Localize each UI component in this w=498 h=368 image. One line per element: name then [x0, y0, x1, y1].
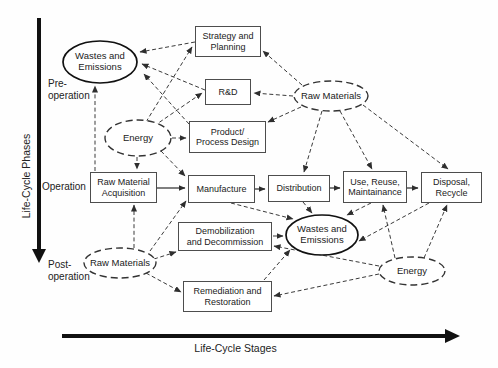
edge-energy-pre-to-manufacture [161, 151, 185, 176]
box-use-reuse-maintainance: Use, Reuse, Maintainance [343, 171, 407, 203]
edge-raw-materials-post-to-remediation-restoration [146, 273, 181, 292]
lifecycle-diagram: Life-Cycle Phases Life-Cycle Stages Pre-… [0, 0, 498, 368]
x-axis-arrow [62, 329, 460, 343]
phase-label-post-operation: Post- operation [48, 259, 90, 282]
box-manufacture: Manufacture [188, 175, 255, 203]
edge-remediation-restoration-to-wastes-emissions-mid [264, 250, 290, 280]
y-axis-arrow [32, 18, 46, 263]
box-remediation-restoration: Remediation and Restoration [183, 281, 272, 312]
edge-product-process-design-to-wastes-emissions-pre [144, 74, 189, 124]
edge-rd-to-wastes-emissions-pre [142, 64, 205, 90]
edge-energy-post-to-disposal-recycle [424, 205, 447, 258]
ellipse-raw-materials-post [84, 248, 156, 278]
edge-raw-materials-pre-to-use-reuse-maintainance [340, 111, 372, 169]
x-axis-label: Life-Cycle Stages [168, 342, 303, 354]
phase-label-pre-operation: Pre- operation [48, 78, 90, 101]
box-product-process-design: Product/ Process Design [189, 121, 266, 153]
edge-strategy-planning-to-wastes-emissions-pre [140, 42, 195, 52]
phase-label-operation: Operation [42, 181, 86, 193]
edge-energy-post-to-remediation-restoration [274, 274, 379, 296]
box-raw-material-acquisition: Raw Material Acquisition [90, 172, 157, 203]
ellipse-energy-pre [105, 120, 171, 156]
edge-manufacture-to-wastes-emissions-mid [231, 203, 293, 219]
edge-raw-materials-post-to-demobilization-decommission [154, 252, 176, 259]
edge-distribution-to-wastes-emissions-mid [303, 202, 312, 213]
edge-raw-materials-pre-to-disposal-recycle [363, 105, 448, 169]
ellipse-wastes-emissions-mid [286, 215, 358, 255]
edge-use-reuse-maintainance-to-wastes-emissions-mid [347, 203, 371, 215]
edge-disposal-recycle-to-wastes-emissions-mid [359, 203, 429, 241]
ellipse-raw-materials-pre [294, 81, 368, 111]
box-distribution: Distribution [268, 175, 330, 202]
edge-raw-materials-pre-to-rd [254, 93, 293, 96]
box-demobilization-decommission: Demobilization and Decommission [178, 222, 272, 251]
ellipse-wastes-emissions-pre [63, 41, 137, 83]
edge-raw-materials-pre-to-strategy-planning [263, 51, 302, 85]
edge-raw-materials-pre-to-distribution [304, 111, 322, 172]
box-disposal-recycle: Disposal, Recycle [421, 172, 482, 203]
ellipse-energy-post [379, 257, 445, 285]
y-axis-label: Life-Cycle Phases [20, 116, 32, 236]
box-rd: R&D [205, 79, 251, 105]
edge-raw-materials-pre-to-product-process-design [268, 107, 301, 122]
box-strategy-planning: Strategy and Planning [195, 26, 261, 57]
edge-energy-post-to-use-reuse-maintainance [383, 205, 395, 258]
